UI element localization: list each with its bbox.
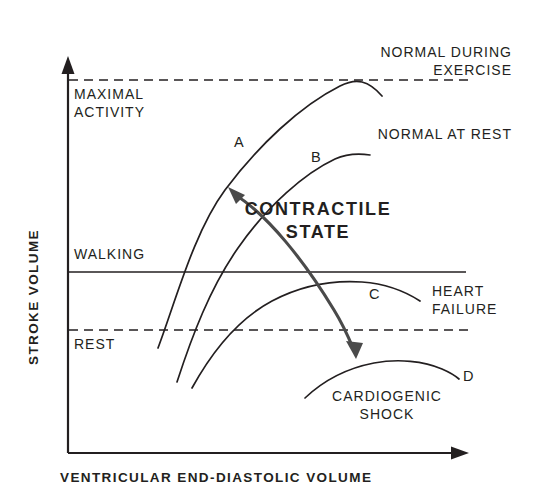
curve-label-d: D xyxy=(463,367,474,385)
annotation-cardiogenic-shock: CARDIOGENIC SHOCK xyxy=(312,388,462,423)
cardiac-function-curve-diagram: STROKE VOLUME VENTRICULAR END-DIASTOLIC … xyxy=(0,0,548,494)
annotation-normal-during-exercise: NORMAL DURING EXERCISE xyxy=(330,44,512,79)
annotation-heart-failure: HEART FAILURE xyxy=(432,283,512,318)
curve-b-normal-at-rest xyxy=(177,154,370,382)
arrowhead-down-right xyxy=(346,341,363,359)
curve-label-a: A xyxy=(234,133,244,151)
curve-label-c: C xyxy=(369,285,380,303)
reference-label-rest: REST xyxy=(74,336,115,354)
x-axis-arrowhead xyxy=(451,447,469,460)
y-axis-arrowhead xyxy=(62,56,75,74)
curve-c-heart-failure xyxy=(192,282,420,388)
contractile-state-label: CONTRACTILE STATE xyxy=(238,198,398,245)
reference-label-maximal-activity: MAXIMAL ACTIVITY xyxy=(74,86,145,121)
curve-label-b: B xyxy=(311,148,321,166)
annotation-normal-at-rest: NORMAL AT REST xyxy=(330,126,512,144)
reference-label-walking: WALKING xyxy=(74,246,145,264)
x-axis-title: VENTRICULAR END-DIASTOLIC VOLUME xyxy=(60,470,372,487)
y-axis-title: STROKE VOLUME xyxy=(26,229,43,365)
